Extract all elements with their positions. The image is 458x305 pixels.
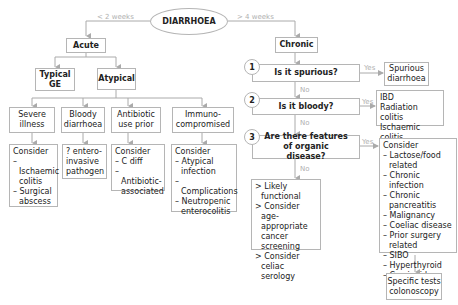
result-antibiotic: Consider – C diff – Antibiotic-associate… [111, 144, 165, 191]
result-item: > Consider age-appropriate cancer screen… [255, 202, 317, 252]
category-antibiotic-use: Antibiotic use prior [111, 107, 161, 133]
result-item: – C diff [115, 157, 161, 167]
acute-node: Acute [66, 38, 106, 53]
result-item: – Hyperthyroid [383, 261, 453, 271]
yes-label-1: Yes [364, 64, 375, 72]
result-item: – Complications [175, 177, 233, 197]
result-item: – Neutropenic enterocolitis [175, 197, 233, 217]
result-item: – Chronic infection [383, 171, 453, 191]
yes-label-3: Yes [362, 138, 373, 146]
organic-disease-result: Consider – Lactose/food related – Chroni… [379, 138, 457, 253]
acute-duration-label: < 2 weeks [97, 13, 134, 21]
result-immunocompromised: Consider – Atypical infection – Complica… [171, 144, 237, 212]
category-severe-illness: Severe illness [9, 107, 55, 133]
result-item: ? entero-invasive pathogen [66, 147, 103, 177]
result-item: – Atypical infection [175, 157, 233, 177]
result-item: – Antibiotic-associated [115, 167, 161, 197]
result-bloody-diarrhoea: ? entero-invasive pathogen [62, 144, 107, 179]
result-item: > Likely functional [255, 182, 317, 202]
result-title: Consider [175, 147, 233, 157]
result-item: – Malignancy [383, 211, 453, 221]
result-title: Consider [383, 141, 453, 151]
result-item: – Chronic pancreatitis [383, 191, 453, 211]
category-bloody-diarrhoea: Bloody diarrhoea [61, 107, 105, 133]
question-3-box: Are there features of organic disease? [252, 135, 360, 159]
result-item: IBD [380, 93, 440, 103]
atypical-node: Atypical [97, 68, 136, 90]
question-2-number: 2 [244, 92, 260, 108]
result-item: – Prior surgery related [383, 231, 453, 251]
no-label-1: No [300, 86, 310, 94]
category-immunocompromised: Immuno-compromised [172, 107, 234, 133]
result-item: – Surgical abscess [13, 187, 54, 207]
result-item: Radiation colitis [380, 103, 440, 123]
question-3-number: 3 [244, 129, 260, 145]
result-title: Consider [13, 147, 54, 157]
root-node-diarrhoea: DIARRHOEA [150, 8, 228, 35]
result-title: Consider [115, 147, 161, 157]
chronic-duration-label: > 4 weeks [237, 13, 274, 21]
result-item: – Ischaemic colitis [13, 157, 54, 187]
chronic-node: Chronic [275, 37, 318, 53]
no-label-3: No [300, 165, 310, 173]
functional-result: > Likely functional > Consider age-appro… [251, 179, 321, 250]
no-label-2: No [300, 119, 310, 127]
typical-ge-node: Typical GE [35, 68, 75, 91]
specific-tests-node: Specific tests colonoscopy [386, 273, 442, 300]
result-severe-illness: Consider – Ischaemic colitis – Surgical … [9, 144, 58, 207]
result-item: – SIBO [383, 251, 453, 261]
spurious-result: Spurious diarrhoea [384, 62, 429, 86]
result-item: – Lactose/food related [383, 151, 453, 171]
question-2-box: Is it bloody? [252, 98, 360, 115]
result-item: > Consider celiac serology [255, 252, 317, 282]
result-item: – Coeliac disease [383, 221, 453, 231]
yes-label-2: Yes [362, 98, 373, 106]
bloody-result: IBD Radiation colitis Ischaemic colitis [376, 90, 444, 126]
question-1-number: 1 [244, 59, 260, 75]
question-1-box: Is it spurious? [252, 64, 360, 82]
